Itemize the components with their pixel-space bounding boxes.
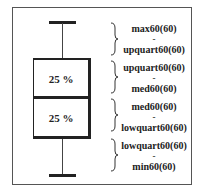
range-label-lowquart-min: lowquart60(60) - min60(60) [118,139,190,173]
range-label-max-upquart: max60(60) - upquart60(60) [118,22,190,56]
range-label-med-lowquart: med60(60) - lowquart60(60) [118,100,190,134]
range-separator: - [118,35,190,43]
range-separator: - [118,74,190,82]
range-to: lowquart60(60) [118,121,190,134]
lower-box-percent: 25 % [49,112,74,124]
range-label-upquart-med: upquart60(60) - med60(60) [118,61,190,95]
brace-icon [110,60,118,94]
upper-box-percent: 25 % [49,73,74,85]
range-separator: - [118,113,190,121]
upper-quartile-box: 25 % [33,58,91,98]
range-to: min60(60) [118,160,190,173]
range-to: upquart60(60) [118,43,190,56]
brace-icon [110,138,118,172]
brace-icon [110,98,118,132]
brace-icon [110,22,118,56]
range-to: med60(60) [118,82,190,95]
lower-quartile-box: 25 % [33,96,91,139]
range-separator: - [118,152,190,160]
upper-whisker [62,23,63,58]
min-whisker-cap [49,174,76,177]
lower-whisker [62,139,63,175]
